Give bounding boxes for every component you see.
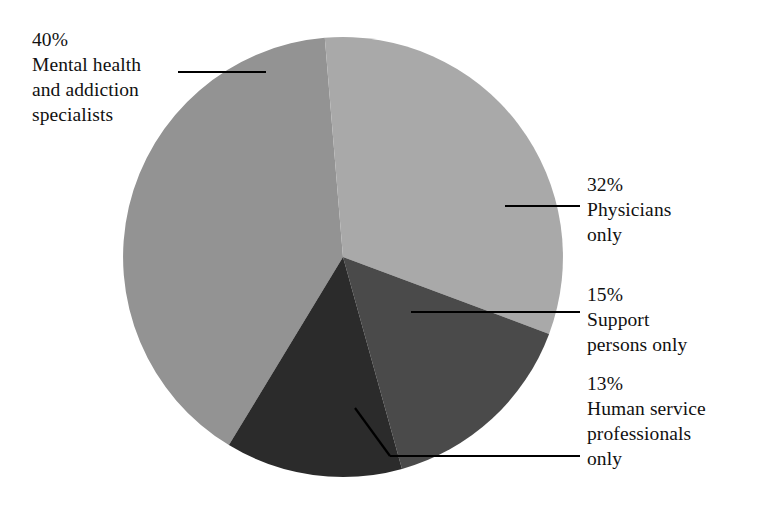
slice-name-human-service-line2: professionals: [587, 421, 706, 446]
slice-label-human-service: 13% Human service professionals only: [587, 371, 706, 471]
slice-name-mental-health-line2: and addiction: [32, 77, 141, 102]
slice-percent-support-persons: 15%: [587, 282, 687, 307]
slice-name-human-service-line1: Human service: [587, 396, 706, 421]
slice-percent-human-service: 13%: [587, 371, 706, 396]
slice-name-physicians-line2: only: [587, 222, 671, 247]
pie-chart-figure: 40% Mental health and addiction speciali…: [0, 0, 781, 524]
slice-name-mental-health-line1: Mental health: [32, 52, 141, 77]
slice-name-mental-health-line3: specialists: [32, 102, 141, 127]
slice-percent-physicians: 32%: [587, 172, 671, 197]
slice-label-physicians: 32% Physicians only: [587, 172, 671, 247]
slice-name-human-service-line3: only: [587, 446, 706, 471]
slice-label-mental-health: 40% Mental health and addiction speciali…: [32, 27, 141, 127]
slice-name-physicians-line1: Physicians: [587, 197, 671, 222]
slice-label-support-persons: 15% Support persons only: [587, 282, 687, 357]
slice-name-support-persons-line2: persons only: [587, 332, 687, 357]
slice-name-support-persons-line1: Support: [587, 307, 687, 332]
slice-percent-mental-health: 40%: [32, 27, 141, 52]
